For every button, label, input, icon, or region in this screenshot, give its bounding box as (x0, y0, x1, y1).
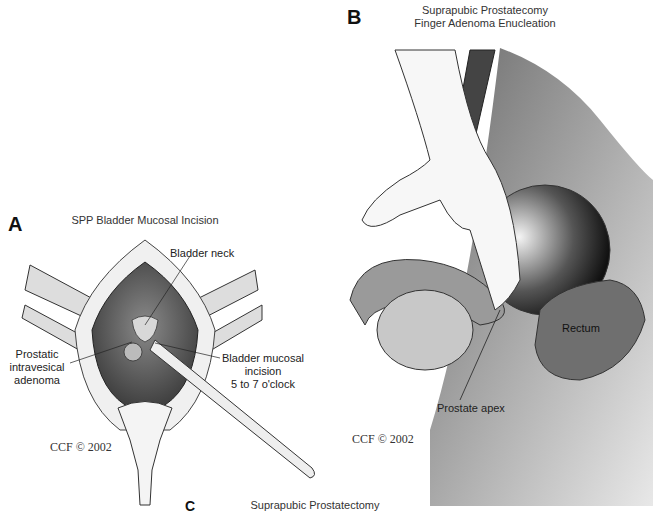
label-prostatic-adenoma-line3: adenoma (2, 374, 72, 387)
panel-b-letter: B (347, 6, 361, 29)
panel-c-letter: C (185, 498, 195, 514)
label-prostatic-adenoma: Prostatic intravesical adenoma (2, 348, 72, 387)
label-prostatic-adenoma-line2: intravesical (2, 361, 72, 374)
panel-a-copyright: CCF © 2002 (50, 440, 112, 455)
label-bladder-neck: Bladder neck (170, 247, 234, 260)
label-rectum: Rectum (562, 322, 600, 335)
label-incision-line3: 5 to 7 o'clock (218, 378, 308, 391)
panel-b-title-line2: Finger Adenoma Enucleation (400, 17, 570, 30)
label-incision-line2: incision (218, 365, 308, 378)
panel-b-title-line1: Suprapubic Prostatecomy (400, 4, 570, 17)
panel-b-copyright: CCF © 2002 (352, 432, 414, 447)
label-prostatic-adenoma-line1: Prostatic (2, 348, 72, 361)
label-prostate-apex: Prostate apex (437, 402, 505, 415)
panel-b-title: Suprapubic Prostatecomy Finger Adenoma E… (400, 4, 570, 30)
label-incision-line1: Bladder mucosal (218, 352, 308, 365)
panel-a-title: SPP Bladder Mucosal Incision (70, 214, 220, 227)
panel-c-title: Suprapubic Prostatectomy (250, 499, 380, 512)
panel-a-letter: A (8, 213, 22, 236)
label-bladder-mucosal-incision: Bladder mucosal incision 5 to 7 o'clock (218, 352, 308, 391)
